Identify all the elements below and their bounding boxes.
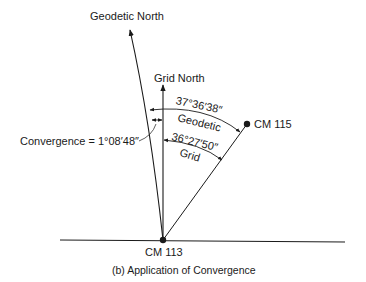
convergence-label: Convergence = 1°08′48″ (20, 135, 139, 147)
cm115-label: CM 115 (254, 118, 292, 130)
convergence-leader (139, 124, 156, 141)
figure-caption: (b) Application of Convergence (112, 264, 256, 276)
geodetic-north-label: Geodetic North (90, 10, 164, 22)
cm113-label: CM 113 (145, 246, 183, 258)
cm113-point (160, 237, 166, 243)
cm115-point (244, 121, 250, 127)
baseline (60, 240, 345, 242)
grid-north-label: Grid North (154, 72, 205, 84)
